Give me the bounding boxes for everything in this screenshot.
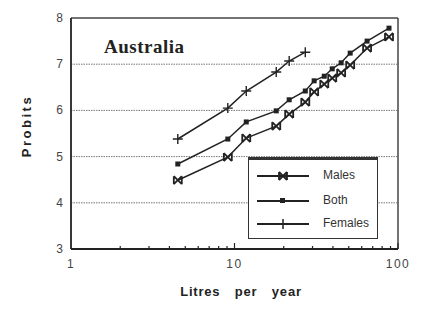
x-box-marker-icon: [272, 122, 280, 130]
x-box-marker-icon: [363, 44, 371, 52]
y-tick-label: 8: [56, 11, 63, 25]
x-box-marker-icon: [242, 134, 250, 142]
square-marker-icon: [274, 108, 279, 113]
x-tick-label: 1: [67, 257, 75, 271]
square-marker-icon: [175, 161, 180, 166]
square-marker-icon: [287, 97, 292, 102]
legend-label-females: Females: [323, 216, 369, 230]
legend-label-both: Both: [323, 193, 348, 207]
x-tick-label: 100: [386, 257, 411, 271]
y-tick-label: 4: [56, 196, 63, 210]
x-axis-label: Litres per year: [171, 284, 311, 299]
plus-marker-icon: [278, 219, 288, 229]
square-marker-icon: [225, 137, 230, 142]
y-tick-label: 7: [56, 57, 63, 71]
y-tick-label: 6: [56, 103, 63, 117]
square-marker-icon: [387, 26, 392, 31]
y-axis-label: Probits: [19, 95, 34, 157]
square-marker-icon: [244, 119, 249, 124]
square-marker-icon: [348, 51, 353, 56]
y-tick-label: 3: [56, 242, 63, 256]
y-tick-label: 5: [56, 150, 63, 164]
x-box-marker-icon: [328, 74, 336, 82]
x-box-marker-icon: [301, 98, 309, 106]
legend-item-females: Females: [249, 214, 377, 234]
x-box-marker-icon: [174, 176, 182, 184]
legend-label-males: Males: [323, 168, 355, 182]
x-box-marker-icon: [224, 153, 232, 161]
x-box-marker-icon: [385, 33, 393, 41]
square-marker-icon: [339, 60, 344, 65]
square-marker-icon: [280, 198, 286, 204]
x-box-marker-icon: [278, 171, 288, 181]
square-marker-icon: [330, 66, 335, 71]
square-marker-icon: [303, 88, 308, 93]
x-tick-label: 10: [226, 257, 242, 271]
x-box-marker-icon: [285, 110, 293, 118]
plus-marker-icon: [173, 134, 183, 144]
legend-item-both: Both: [249, 191, 377, 211]
square-marker-icon: [322, 74, 327, 79]
legend: Males Both Females: [248, 157, 378, 239]
plus-marker-icon: [300, 47, 310, 57]
square-marker-icon: [312, 78, 317, 83]
square-marker-icon: [365, 39, 370, 44]
x-box-marker-icon: [337, 69, 345, 77]
y-axis-label-container: Probits: [8, 90, 44, 162]
x-box-marker-icon: [310, 88, 318, 96]
x-box-marker-icon: [320, 80, 328, 88]
legend-item-males: Males: [249, 166, 377, 186]
x-box-marker-icon: [346, 61, 354, 69]
series-line-both: [178, 28, 389, 164]
chart-title: Australia: [104, 36, 185, 58]
